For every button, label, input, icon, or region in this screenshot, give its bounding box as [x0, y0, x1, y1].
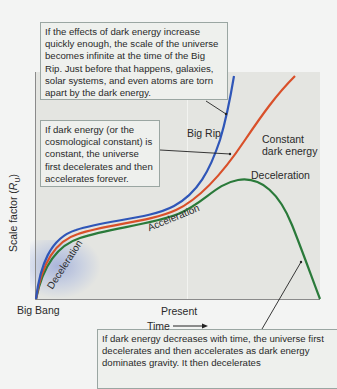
- curve-constant-dark-energy: [36, 76, 295, 299]
- label-constant-2: dark energy: [262, 145, 317, 157]
- callout-decreasing: If dark energy decreases with time, the …: [97, 329, 337, 389]
- leader-decreasing: [262, 262, 301, 329]
- leader-constant: [160, 150, 230, 154]
- y-axis-label: Scale factor (RU): [7, 174, 21, 252]
- x-start-label: Big Bang: [17, 304, 60, 316]
- callout-big-rip: If the effects of dark energy increase q…: [40, 22, 228, 100]
- label-deceleration-late: Deceleration: [251, 169, 310, 181]
- label-big-rip: Big Rip: [187, 127, 221, 139]
- x-present-label: Present: [161, 305, 197, 317]
- leader-big-rip: [206, 101, 226, 114]
- x-axis-label: Time: [147, 320, 170, 332]
- right-arrow-icon: [173, 324, 208, 329]
- callout-constant: If dark energy (or the cosmological cons…: [40, 120, 160, 187]
- label-constant-1: Constant: [262, 133, 304, 145]
